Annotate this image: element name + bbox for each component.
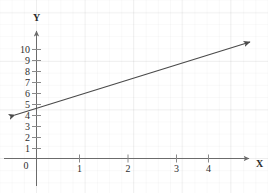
y-axis-title: Y: [33, 13, 40, 23]
y-tick-label-3: 3: [25, 122, 30, 132]
plot-area: [0, 0, 268, 193]
origin-label-0: 0: [24, 161, 29, 171]
graph-figure: Y X 10 9 8 7 6 5 4 3 2 1 0 1 2 3 4: [0, 0, 268, 193]
y-tick-label-2: 2: [25, 133, 30, 143]
y-tick-label-5: 5: [25, 100, 30, 110]
y-tick-label-9: 9: [25, 56, 30, 66]
x-tick-label-4: 4: [206, 164, 211, 174]
x-tick-label-2: 2: [126, 164, 131, 174]
y-tick-label-7: 7: [25, 78, 30, 88]
x-tick-label-1: 1: [77, 164, 82, 174]
y-tick-label-10: 10: [20, 45, 30, 55]
y-tick-label-1: 1: [25, 144, 30, 154]
y-tick-label-6: 6: [25, 89, 30, 99]
x-tick-label-3: 3: [174, 164, 179, 174]
plotted-line: [15, 42, 250, 115]
y-tick-label-8: 8: [25, 67, 30, 77]
x-axis-title: X: [256, 159, 263, 169]
y-tick-label-4: 4: [25, 111, 30, 121]
